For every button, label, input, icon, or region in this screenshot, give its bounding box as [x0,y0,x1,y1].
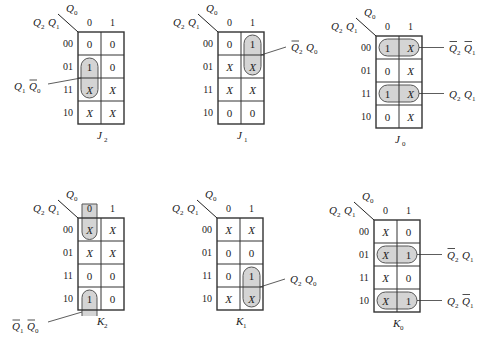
kmap-cell: 0 [87,270,93,282]
col-header: 1 [406,205,411,216]
kmap-cell: 0 [226,247,232,259]
col-header: 0 [87,17,92,28]
map-label: J [97,129,103,141]
kmap-cell: X [381,295,390,307]
kmap-cell: X [85,247,94,259]
kmap-cell: 0 [406,226,412,238]
term-subscript: 1 [56,23,60,31]
kmap-cell: 0 [227,38,233,50]
term-variable: Q [29,80,37,92]
term-variable: Q [329,204,337,216]
kmap-k2: Q1Q0XXXX00100100011110Q0Q2Q1K2 [12,188,124,335]
term-subscript: 2 [41,209,45,217]
kmap-cell: X [85,84,94,96]
term-variable: Q [462,295,470,307]
col-header: 0 [227,17,232,28]
row-header: 10 [63,293,73,304]
term-subscript: 0 [372,13,376,21]
term-label: Q2Q1 [33,202,60,217]
row-header: 11 [203,84,213,95]
term-subscript: 1 [22,87,26,95]
kmap-cell: X [381,249,390,261]
term-subscript: 2 [455,302,459,310]
col-header: 1 [110,203,115,214]
map-label-subscript: 0 [402,140,406,148]
kmap-cell: X [247,224,256,236]
term-variable: Q [290,273,298,285]
row-header: 00 [203,38,213,49]
term-variable: Q [344,204,352,216]
term-subscript: 2 [299,48,303,56]
kmap-cell: 0 [226,270,232,282]
row-header: 10 [359,295,369,306]
row-header: 01 [63,61,73,72]
term-label: Q2Q1 [449,42,476,57]
map-label-subscript: 0 [400,324,404,332]
term-variable: Q [449,88,457,100]
term-subscript: 0 [313,280,317,288]
kmap-j2: Q1Q00010XXXX0100011110Q0Q2Q1J2 [14,2,124,144]
col-header: 0 [87,203,92,214]
kmap-cell: 0 [87,38,93,50]
col-header: 1 [250,17,255,28]
row-header: 00 [202,224,212,235]
kmap-cell: 1 [385,42,391,54]
term-variable: Q [364,6,372,18]
row-header: 01 [361,65,371,76]
term-variable: Q [291,41,299,53]
kmap-cell: 1 [87,61,93,73]
row-header: 00 [63,224,73,235]
kmap-cell: X [224,224,233,236]
term-subscript: 2 [337,211,341,219]
row-header: 01 [203,61,213,72]
map-label: J [395,133,401,145]
term-label: Q2Q0 [290,273,317,288]
term-variable: Q [12,320,20,332]
kmap-cell: 0 [110,38,116,50]
kmap-cell: X [108,224,117,236]
term-variable: Q [447,249,455,261]
term-variable: Q [305,273,313,285]
row-header: 11 [359,272,369,283]
kmap-cell: X [108,107,117,119]
term-subscript: 2 [180,209,184,217]
term-subscript: 1 [196,23,200,31]
map-label-subscript: 2 [104,322,108,330]
row-header: 01 [202,247,212,258]
term-subscript: 0 [74,195,78,203]
kmap-cell: X [225,61,234,73]
term-label: Q2Q1 [329,204,356,219]
term-variable: Q [188,16,196,28]
term-subscript: 1 [472,95,476,103]
term-variable: Q [66,188,74,200]
term-label: Q0 [362,190,374,205]
row-header: 01 [359,249,369,260]
row-header: 11 [63,270,73,281]
grouping-loop: Q2Q1 [377,292,474,310]
row-header: 00 [63,38,73,49]
row-header: 10 [202,293,212,304]
col-header: 1 [249,203,254,214]
row-header: 10 [203,107,213,118]
leader-line [260,279,285,287]
term-label: Q2Q1 [449,88,476,103]
grouping-loop: Q2Q1 [379,39,476,57]
grouping-loop: Q2Q1 [379,85,476,103]
term-label: Q0 [364,6,376,21]
map-label-subscript: 1 [243,322,247,330]
kmap-cell: 0 [250,107,256,119]
kmap-cell: 0 [406,272,412,284]
term-subscript: 0 [213,195,217,203]
term-variable: Q [331,20,339,32]
term-label: Q1Q0 [12,320,39,335]
term-variable: Q [14,80,22,92]
row-header: 10 [361,111,371,122]
kmap-cell: 1 [250,38,256,50]
term-variable: Q [172,202,180,214]
term-subscript: 2 [298,280,302,288]
row-header: 10 [63,107,73,118]
term-subscript: 2 [457,95,461,103]
term-label: Q2Q0 [291,41,318,56]
term-variable: Q [173,16,181,28]
term-label: Q2Q1 [447,249,474,264]
